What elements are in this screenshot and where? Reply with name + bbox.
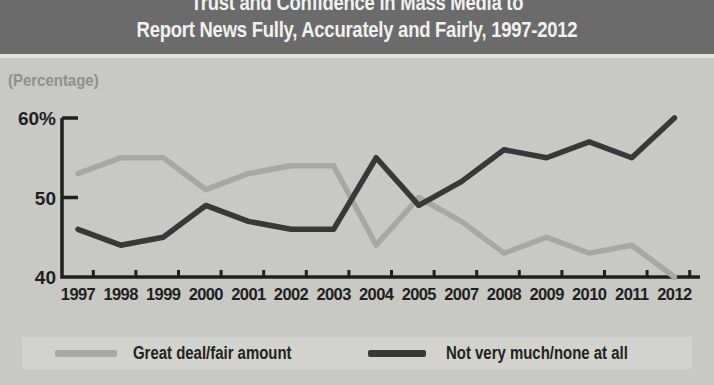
line-chart: 405060%199719981999200020012002200320042…: [0, 0, 714, 385]
figure: Trust and Confidence in Mass Media to Re…: [0, 0, 714, 385]
x-tick-label: 1999: [146, 285, 181, 303]
y-tick-label: 60%: [18, 108, 56, 129]
legend-label-not-very-much: Not very much/none at all: [446, 343, 628, 364]
legend-swatch-great-deal: [55, 350, 117, 357]
series-line-great-deal: [78, 158, 674, 277]
x-tick-label: 2004: [359, 285, 395, 303]
legend-swatch-not-very-much: [368, 350, 426, 357]
x-tick-label: 1998: [103, 285, 138, 303]
x-tick-label: 2005: [402, 285, 437, 303]
y-tick-label: 40: [35, 267, 56, 288]
x-tick-label: 2012: [657, 285, 692, 303]
x-tick-label: 1997: [61, 285, 96, 303]
x-tick-label: 2002: [274, 285, 309, 303]
x-tick-label: 2009: [529, 285, 564, 303]
x-tick-label: 2007: [444, 285, 479, 303]
legend: Great deal/fair amount Not very much/non…: [22, 337, 692, 369]
x-tick-label: 2001: [231, 285, 266, 303]
x-tick-label: 2011: [615, 285, 649, 303]
x-tick-label: 2003: [316, 285, 351, 303]
axis-lines: [62, 118, 700, 277]
legend-label-great-deal: Great deal/fair amount: [133, 343, 292, 364]
x-tick-label: 2000: [189, 285, 224, 303]
series-line-not-very-much: [78, 118, 674, 245]
x-tick-label: 2010: [572, 285, 607, 303]
y-tick-label: 50: [35, 188, 56, 209]
x-tick-label: 2008: [487, 285, 522, 303]
